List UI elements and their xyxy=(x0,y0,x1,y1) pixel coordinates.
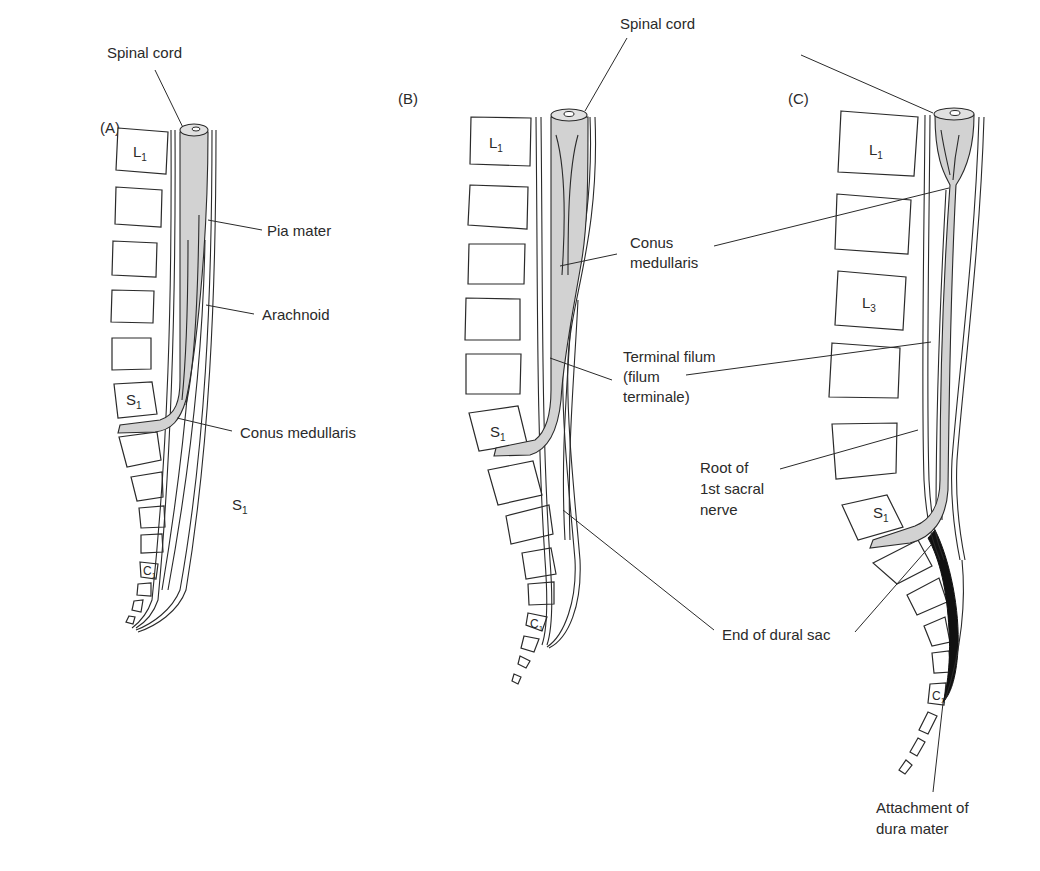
central-canal-c xyxy=(950,111,960,116)
shared-spinal-cord-callout: Spinal cord xyxy=(585,15,933,113)
vertebra-b xyxy=(465,298,520,340)
spinal-cord-c xyxy=(870,115,974,548)
leader-end-of-dural-sac-b xyxy=(563,510,714,630)
vertebrae-b xyxy=(465,117,556,684)
vertebra-b xyxy=(506,505,553,544)
callout-attachment-line2: dura mater xyxy=(876,820,949,837)
leader-conus-medullaris-a xyxy=(177,418,232,431)
callout-terminal-filum-line2: (filum xyxy=(623,368,660,385)
vertebra-c xyxy=(919,712,937,734)
vertebra-label-s1-free: S1 xyxy=(232,496,248,516)
vertebra-a xyxy=(137,583,151,596)
callout-root-line3: nerve xyxy=(700,501,738,518)
callout-conus-medullaris-b-line1: Conus xyxy=(630,234,673,251)
spinal-cord-diagram: (A) Spinal cord L1 S1 C1 xyxy=(0,0,1040,871)
callout-root-line1: Root of xyxy=(700,459,749,476)
leader-conus-medullaris-c xyxy=(714,188,949,246)
vertebra-l1-b xyxy=(470,117,531,166)
vertebra-l1-c xyxy=(838,111,918,176)
dura-attachment-c xyxy=(928,530,958,702)
vertebrae-c xyxy=(829,111,951,774)
vertebra-c xyxy=(899,760,912,774)
callout-end-of-dural-sac: End of dural sac xyxy=(722,626,831,643)
vertebra-a xyxy=(112,241,157,277)
callout-spinal-cord-bc: Spinal cord xyxy=(620,15,695,32)
vertebra-b xyxy=(521,636,539,652)
leader-pia-mater xyxy=(208,220,262,230)
vertebra-a xyxy=(119,432,161,467)
panel-c: (C) L1 L3 S1 C1 xyxy=(686,90,984,837)
panel-a-label: (A) xyxy=(100,119,120,136)
panel-c-label: (C) xyxy=(788,90,809,107)
vertebra-l1-a xyxy=(116,128,168,174)
vertebra-a xyxy=(126,616,135,624)
vertebra-b xyxy=(466,354,521,394)
vertebra-a xyxy=(111,290,154,323)
vertebra-c xyxy=(832,423,897,479)
vertebra-a xyxy=(141,534,163,553)
vertebra-b xyxy=(528,582,554,605)
vertebra-a xyxy=(112,338,151,370)
callout-terminal-filum-line1: Terminal filum xyxy=(623,348,716,365)
vertebra-c xyxy=(924,617,950,646)
vertebra-c xyxy=(835,194,911,254)
vertebra-b xyxy=(468,244,525,284)
panel-b-label: (B) xyxy=(398,90,418,107)
arachnoid-line-c xyxy=(956,117,984,560)
callout-attachment-line1: Attachment of xyxy=(876,799,969,816)
vertebra-c xyxy=(910,738,925,756)
vertebra-a xyxy=(131,472,163,501)
vertebra-b xyxy=(488,461,542,505)
vertebra-l3-c xyxy=(835,271,906,330)
callout-pia-mater: Pia mater xyxy=(267,222,331,239)
vertebra-c xyxy=(907,578,947,615)
callout-root-line2: 1st sacral xyxy=(700,480,764,497)
vertebrae-a xyxy=(111,128,168,624)
vertebra-a xyxy=(139,506,165,528)
callout-spinal-cord-a: Spinal cord xyxy=(107,44,182,61)
vertebra-a xyxy=(115,187,162,227)
dura-line-c xyxy=(923,115,940,560)
callout-conus-medullaris-b-line2: medullaris xyxy=(630,254,698,271)
panel-b: (B) L1 S1 C1 xyxy=(398,90,831,684)
leader-spinal-cord-b xyxy=(585,38,627,111)
vertebra-b xyxy=(518,656,530,668)
callout-arachnoid: Arachnoid xyxy=(262,306,330,323)
vertebra-b xyxy=(468,185,528,229)
vertebra-b xyxy=(512,674,521,684)
callout-conus-medullaris-a: Conus medullaris xyxy=(240,424,356,441)
vertebra-a xyxy=(132,600,143,612)
callout-terminal-filum-line3: terminale) xyxy=(623,388,690,405)
panel-a: (A) Spinal cord L1 S1 C1 xyxy=(100,44,356,632)
central-canal-a xyxy=(192,127,200,131)
central-canal-b xyxy=(564,112,574,117)
leader-spinal-cord-c xyxy=(801,55,933,113)
